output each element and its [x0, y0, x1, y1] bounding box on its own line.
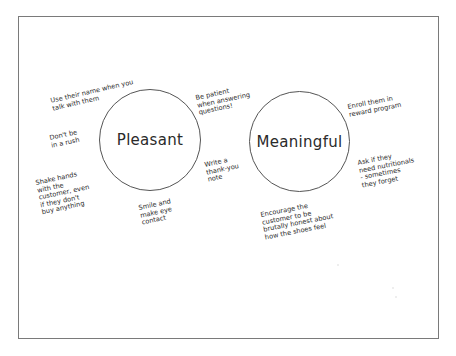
speck: [392, 287, 394, 289]
pleasant-circle: Pleasant: [99, 89, 201, 191]
pleasant-label: Pleasant: [117, 131, 183, 149]
diagram-canvas: Pleasant Meaningful Use their name when …: [0, 0, 456, 356]
speck: [337, 264, 339, 266]
meaningful-label: Meaningful: [256, 133, 342, 151]
speck: [395, 296, 397, 298]
meaningful-circle: Meaningful: [249, 91, 350, 192]
